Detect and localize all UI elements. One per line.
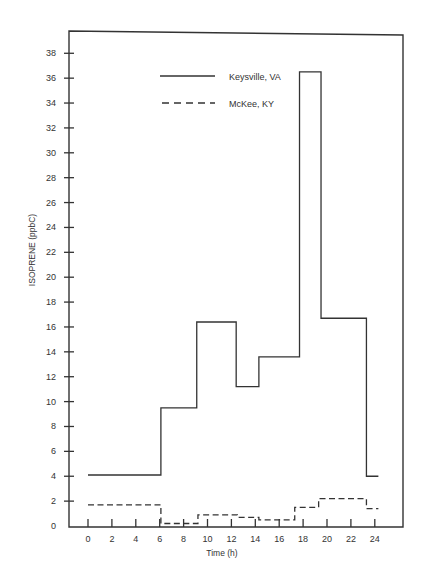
x-tick-label: 6 xyxy=(157,534,162,544)
series-group xyxy=(88,72,378,524)
x-tick-label: 16 xyxy=(274,534,284,544)
legend-label-mckee: McKee, KY xyxy=(229,99,274,109)
y-tick-label: 28 xyxy=(46,173,56,183)
y-tick-label: 16 xyxy=(46,322,56,332)
y-tick-label: 0 xyxy=(51,521,56,531)
x-tick-label: 4 xyxy=(133,534,138,544)
legend-label-keysville: Keysville, VA xyxy=(229,72,281,82)
y-axis-label: ISOPRENE (ppbC) xyxy=(27,214,37,286)
y-tick-label: 38 xyxy=(46,48,56,58)
x-tick-label: 10 xyxy=(202,534,212,544)
x-axis: 024681012141618202224 xyxy=(85,519,379,544)
y-tick-label: 14 xyxy=(46,347,56,357)
x-tick-label: 24 xyxy=(370,534,380,544)
series-mckee-line xyxy=(88,499,378,524)
x-tick-label: 14 xyxy=(250,534,260,544)
x-axis-label: Time (h) xyxy=(206,548,237,558)
chart: 02468101214161820222426283032343638 0246… xyxy=(0,0,423,582)
y-tick-label: 26 xyxy=(46,198,56,208)
x-tick-label: 18 xyxy=(298,534,308,544)
x-tick-label: 20 xyxy=(322,534,332,544)
series-keysville-line xyxy=(88,72,378,476)
y-tick-label: 34 xyxy=(46,98,56,108)
y-tick-label: 24 xyxy=(46,222,56,232)
x-tick-label: 12 xyxy=(226,534,236,544)
x-tick-label: 2 xyxy=(109,534,114,544)
y-tick-label: 30 xyxy=(46,148,56,158)
y-tick-label: 12 xyxy=(46,372,56,382)
y-tick-label: 32 xyxy=(46,123,56,133)
y-tick-label: 18 xyxy=(46,297,56,307)
y-tick-label: 6 xyxy=(51,446,56,456)
y-tick-label: 10 xyxy=(46,397,56,407)
y-axis: 02468101214161820222426283032343638 xyxy=(46,48,74,531)
y-tick-label: 36 xyxy=(46,73,56,83)
x-tick-label: 0 xyxy=(85,534,90,544)
y-tick-label: 4 xyxy=(51,471,56,481)
x-tick-label: 8 xyxy=(181,534,186,544)
y-tick-label: 2 xyxy=(51,496,56,506)
y-tick-label: 22 xyxy=(46,247,56,257)
x-tick-label: 22 xyxy=(346,534,356,544)
y-tick-label: 8 xyxy=(51,421,56,431)
y-tick-label: 20 xyxy=(46,272,56,282)
legend: Keysville, VA McKee, KY xyxy=(160,72,281,109)
